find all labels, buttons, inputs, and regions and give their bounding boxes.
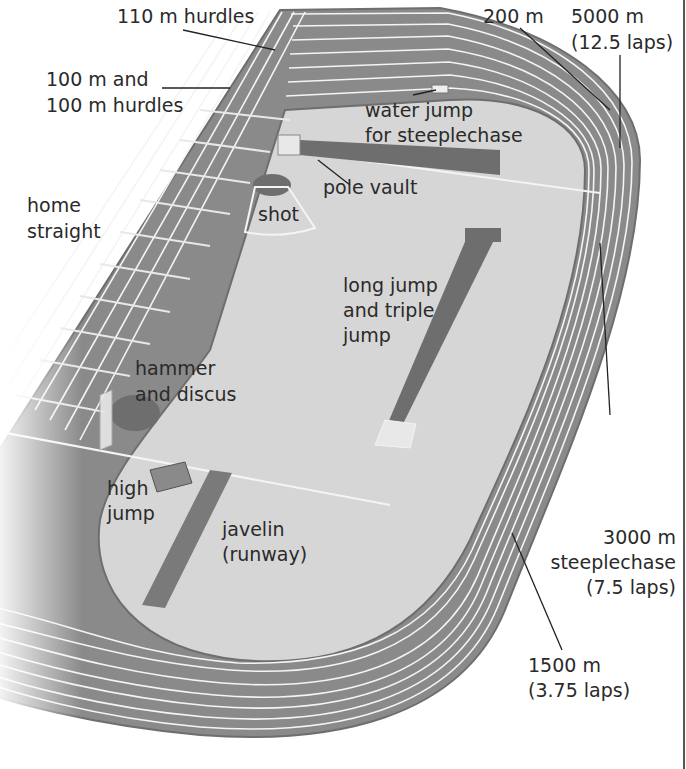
running-track: [0, 8, 640, 737]
label-3000m-line3: (7.5 laps): [586, 575, 676, 599]
label-shot: shot: [258, 202, 299, 226]
label-3000m-line2: steeplechase: [551, 550, 676, 574]
shot-circle: [253, 174, 291, 196]
water-jump: [432, 85, 448, 93]
label-hammer-line2: and discus: [135, 382, 236, 406]
frame-border: [683, 0, 685, 769]
label-100m-line1: 100 m and: [46, 67, 149, 91]
label-3000m-line1: 3000 m: [603, 525, 676, 549]
label-long-jump-line3: jump: [343, 323, 391, 347]
label-200m: 200 m: [483, 4, 544, 28]
label-water-line2: for steeplechase: [365, 123, 523, 147]
label-home-line2: straight: [27, 219, 101, 243]
label-110m-hurdles: 110 m hurdles: [117, 4, 254, 28]
label-5000m-line1: 5000 m: [571, 4, 644, 28]
label-javelin-line2: (runway): [222, 542, 307, 566]
label-high-jump-line2: jump: [107, 501, 155, 525]
label-hammer-line1: hammer: [135, 356, 215, 380]
label-long-jump-line1: long jump: [343, 273, 438, 297]
label-long-jump-line2: and triple: [343, 298, 434, 322]
track-diagram: 110 m hurdles 100 m and 100 m hurdles ho…: [0, 0, 686, 769]
label-water-line1: water jump: [365, 98, 473, 122]
pole-vault-pit: [278, 135, 300, 155]
label-1500m-line1: 1500 m: [528, 653, 601, 677]
label-100m-line2: 100 m hurdles: [46, 93, 183, 117]
label-home-line1: home: [27, 193, 81, 217]
label-1500m-line2: (3.75 laps): [528, 678, 630, 702]
label-pole-vault: pole vault: [323, 175, 417, 199]
hammer-cage: [100, 390, 112, 450]
label-5000m-line2: (12.5 laps): [571, 30, 673, 54]
label-high-jump-line1: high: [107, 476, 148, 500]
label-javelin-line1: javelin: [222, 517, 284, 541]
